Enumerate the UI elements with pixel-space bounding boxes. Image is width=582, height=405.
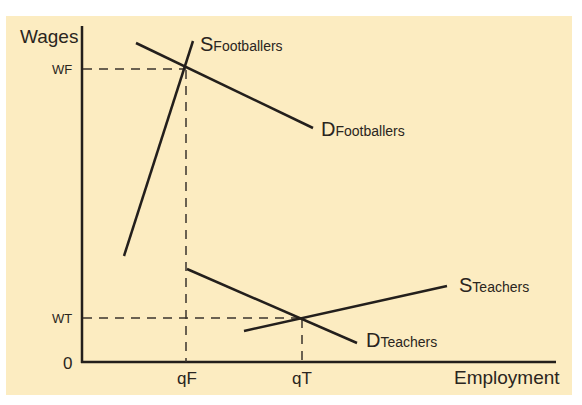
demand-footballers-label: DFootballers xyxy=(321,118,405,140)
wf-label: WF xyxy=(52,62,72,77)
wt-label: WT xyxy=(52,311,72,326)
supply-footballers-curve xyxy=(124,41,193,256)
qt-label: qT xyxy=(292,369,312,388)
demand-teachers-curve xyxy=(187,269,357,343)
labour-market-diagram: Wages Employment 0 WF WT qF qT SFootball… xyxy=(0,0,582,405)
qf-label: qF xyxy=(177,369,197,388)
supply-footballers-label: SFootballers xyxy=(200,33,283,55)
supply-teachers-label: STeachers xyxy=(459,274,529,296)
y-axis-label: Wages xyxy=(20,26,78,47)
demand-footballers-curve xyxy=(136,43,313,128)
origin-label: 0 xyxy=(63,354,72,373)
x-axis-label: Employment xyxy=(454,367,560,388)
supply-teachers-curve xyxy=(244,286,447,331)
demand-teachers-label: DTeachers xyxy=(366,329,437,351)
